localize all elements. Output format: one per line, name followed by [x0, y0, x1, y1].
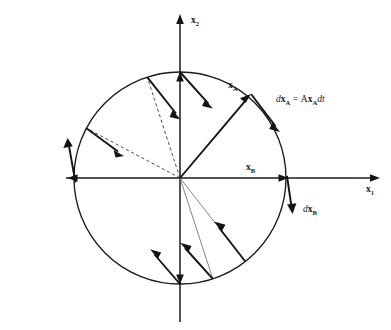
dashed-ray-152deg [86, 128, 180, 178]
differential-xb-label: dxB [303, 204, 318, 216]
flow-arrow-bottom [150, 249, 180, 284]
flow-arrow-xb [287, 176, 296, 214]
state-vector-xb-label-subscript: B [251, 167, 256, 174]
flow-arrow-minus72deg-arrowhead [180, 243, 191, 253]
x-axis-arrowhead [370, 174, 380, 182]
state-vector-xb-label: xB [246, 162, 256, 174]
flow-arrow-top-shaft [180, 72, 208, 104]
flow-arrow-xb-arrowhead [287, 203, 296, 214]
y-axis-label-subscript: 2 [196, 20, 200, 27]
flow-arrow-top-arrowhead [202, 100, 213, 109]
state-vector-xa-shaft [180, 100, 246, 178]
state-vector-xa-label: xA [228, 80, 238, 92]
dashed-rays-group [86, 77, 180, 178]
flow-arrow-minus52deg-shaft [219, 227, 246, 262]
flow-arrow-xa-shaft [251, 94, 276, 126]
y-axis-label: x2 [191, 15, 200, 27]
flow-arrow-xb-shaft [287, 176, 292, 207]
flow-arrow-left-arrowhead [63, 138, 72, 148]
state-vector-xa [180, 94, 251, 178]
flow-arrow-152deg [86, 128, 124, 157]
figure-container: x2 x1 xA xB dxB dxA=AxAdt [0, 0, 391, 330]
flow-arrow-bottom-arrowhead [150, 249, 161, 259]
axes-group [66, 14, 380, 322]
labels-group: x2 x1 xA xB dxB dxA=AxAdt [191, 15, 374, 216]
state-vector-xa-label-subscript: A [233, 85, 238, 92]
x-axis-label: x1 [366, 184, 374, 196]
y-axis-arrowhead [176, 14, 184, 24]
flow-arrow-152deg-arrowhead [114, 150, 125, 158]
flow-arrow-minus72deg-shaft [185, 248, 213, 279]
flow-arrow-minus72deg [180, 243, 213, 279]
flow-arrow-top [180, 72, 213, 109]
flow-arrow-152deg-shaft [86, 128, 118, 151]
thin-ray-minus72deg [180, 178, 213, 279]
top-circle-arrowhead [176, 72, 184, 82]
flow-arrow-minus52deg [214, 222, 245, 262]
thin-rays-group [180, 178, 245, 279]
flow-arrow-108deg-shaft [147, 77, 176, 113]
flow-arrow-108deg [147, 77, 180, 119]
x-axis-label-subscript: 1 [371, 189, 374, 196]
phase-portrait-diagram: x2 x1 xA xB dxB dxA=AxAdt [0, 0, 391, 330]
equation-rhs-dt: dt [317, 94, 325, 104]
equation-label: dxA=AxAdt [276, 94, 325, 106]
equation-lhs-subscript: A [286, 99, 291, 106]
differential-xb-label-subscript: B [313, 209, 318, 216]
flow-arrow-bottom-shaft [155, 255, 181, 285]
left-axis-arrowhead [68, 174, 78, 182]
equation-equals: = [293, 94, 298, 104]
